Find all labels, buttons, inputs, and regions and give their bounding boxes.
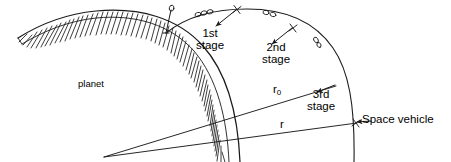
first-stage-label-line2: stage	[196, 39, 224, 51]
space-vehicle-label: Space vehicle	[362, 113, 434, 125]
first-stage-label: 1ststage	[196, 27, 224, 51]
leader-arrow-stage1	[216, 10, 236, 26]
second-stage-label-line1: 2nd	[266, 41, 285, 53]
radius-initial-subscript: 0	[277, 88, 281, 97]
stage-marker-cluster-3	[313, 36, 322, 48]
radius-label: r	[280, 118, 284, 130]
second-stage-label: 2ndstage	[262, 41, 290, 65]
radius-initial-label: r0	[273, 83, 281, 95]
planet-surface-left-tip	[18, 38, 22, 44]
third-stage-label-line2: stage	[307, 100, 335, 112]
second-stage-label-line2: stage	[262, 53, 290, 65]
third-stage-label-line1: 3rd	[313, 88, 330, 100]
diagram-canvas	[0, 0, 451, 162]
first-stage-label-line1: 1st	[202, 27, 217, 39]
planet-label: planet	[78, 79, 104, 89]
trajectory-arc	[166, 9, 354, 162]
rocket-trajectory-diagram: planet 1ststage 2ndstage 3rdstage r0 r S…	[0, 0, 451, 162]
third-stage-label: 3rdstage	[307, 88, 335, 112]
planet-hatching	[19, 12, 225, 162]
